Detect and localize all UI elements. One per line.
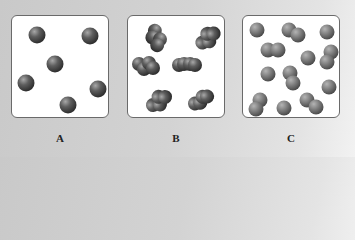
atom-icon xyxy=(261,67,276,82)
molecule-icon xyxy=(192,21,224,55)
panel-c xyxy=(242,15,340,118)
monatomic-particles xyxy=(12,16,110,119)
atom-molecule-mixture xyxy=(243,16,341,119)
panel-c-label: C xyxy=(242,132,340,144)
atom-icon xyxy=(90,81,107,98)
diatomic-molecule-icon xyxy=(300,93,324,115)
molecule-icon xyxy=(142,84,175,118)
atom-icon xyxy=(18,75,35,92)
diatomic-molecule-icon xyxy=(261,43,286,58)
atom-icon xyxy=(29,27,46,44)
atom-icon xyxy=(322,80,337,95)
molecule-icon xyxy=(141,21,171,55)
atom-icon xyxy=(320,25,335,40)
atom-icon xyxy=(250,23,265,38)
atom-icon xyxy=(60,97,77,114)
molecule-icon xyxy=(132,56,160,76)
panel-a-label: A xyxy=(11,132,109,144)
panel-b-label: B xyxy=(127,132,225,144)
atom-icon xyxy=(277,101,292,116)
atom-icon xyxy=(47,56,64,73)
molecule-icon xyxy=(184,85,217,115)
diatomic-molecule-icon xyxy=(320,45,339,70)
polyatomic-molecules xyxy=(128,16,226,119)
atom-icon xyxy=(82,28,99,45)
diatomic-molecule-icon xyxy=(282,23,306,43)
molecule-icon xyxy=(172,57,202,72)
panel-b xyxy=(127,15,225,118)
panel-a xyxy=(11,15,109,118)
diatomic-molecule-icon xyxy=(249,93,268,117)
diatomic-molecule-icon xyxy=(283,66,301,91)
atom-icon xyxy=(301,51,316,66)
